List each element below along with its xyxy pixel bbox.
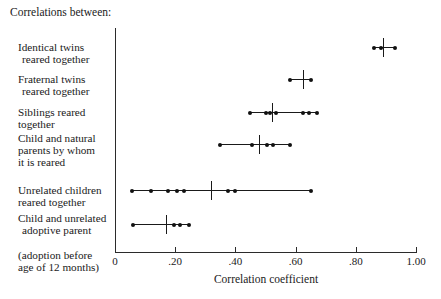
y-axis-line bbox=[115, 28, 116, 253]
data-point bbox=[166, 189, 170, 193]
data-point bbox=[271, 143, 275, 147]
x-axis-title: Correlation coefficient bbox=[115, 273, 417, 285]
median-marker-1 bbox=[303, 70, 304, 89]
x-tick-label-4: .80 bbox=[349, 255, 363, 267]
x-axis-line bbox=[115, 252, 417, 253]
data-point bbox=[309, 189, 313, 193]
data-point bbox=[172, 223, 176, 227]
x-tick-label-2: .40 bbox=[229, 255, 243, 267]
data-point bbox=[178, 223, 182, 227]
data-point bbox=[393, 46, 397, 50]
row-label-3: Child and naturalparents by whomit is re… bbox=[18, 132, 113, 169]
data-point bbox=[264, 111, 268, 115]
data-point bbox=[372, 46, 376, 50]
data-point bbox=[226, 189, 230, 193]
x-tick-4 bbox=[356, 247, 357, 253]
row-label-4: Unrelated childrenreared together bbox=[18, 184, 113, 208]
data-point bbox=[307, 111, 311, 115]
range-line-3 bbox=[220, 144, 289, 145]
row-label-5: Child and unrelatedadoptive parent(adopt… bbox=[18, 212, 113, 273]
data-point bbox=[268, 111, 272, 115]
x-tick-label-0: 0 bbox=[112, 255, 118, 267]
data-point bbox=[248, 111, 252, 115]
x-tick-0 bbox=[115, 247, 116, 253]
x-tick-label-1: .20 bbox=[168, 255, 182, 267]
data-point bbox=[218, 143, 222, 147]
data-point bbox=[149, 189, 153, 193]
range-line-4 bbox=[132, 190, 311, 191]
data-point bbox=[288, 78, 292, 82]
data-point bbox=[288, 143, 292, 147]
data-point bbox=[175, 189, 179, 193]
median-marker-3 bbox=[259, 135, 260, 154]
data-point bbox=[309, 78, 313, 82]
x-tick-label-3: .60 bbox=[289, 255, 303, 267]
x-tick-2 bbox=[235, 247, 236, 253]
x-tick-1 bbox=[175, 247, 176, 253]
data-point bbox=[379, 46, 383, 50]
range-line-0 bbox=[374, 47, 395, 48]
data-point bbox=[265, 143, 269, 147]
range-line-1 bbox=[290, 79, 311, 80]
data-point bbox=[131, 223, 135, 227]
data-point bbox=[130, 189, 134, 193]
data-point bbox=[182, 189, 186, 193]
row-label-0: Identical twinsreared together bbox=[18, 41, 113, 65]
x-tick-label-5: 1.00 bbox=[406, 255, 425, 267]
x-tick-5 bbox=[416, 247, 417, 253]
median-marker-5 bbox=[166, 215, 167, 234]
data-point bbox=[274, 111, 278, 115]
row-label-2: Siblings rearedtogether bbox=[18, 106, 113, 130]
data-point bbox=[233, 189, 237, 193]
correlation-dot-chart: Correlations between: 0.20.40.60.801.00 … bbox=[0, 0, 441, 299]
chart-caption: Correlations between: bbox=[10, 6, 111, 19]
data-point bbox=[187, 223, 191, 227]
median-marker-4 bbox=[211, 181, 212, 200]
data-point bbox=[301, 111, 305, 115]
x-tick-3 bbox=[296, 247, 297, 253]
data-point bbox=[315, 111, 319, 115]
data-point bbox=[250, 143, 254, 147]
row-label-1: Fraternal twinsreared together bbox=[18, 73, 113, 97]
